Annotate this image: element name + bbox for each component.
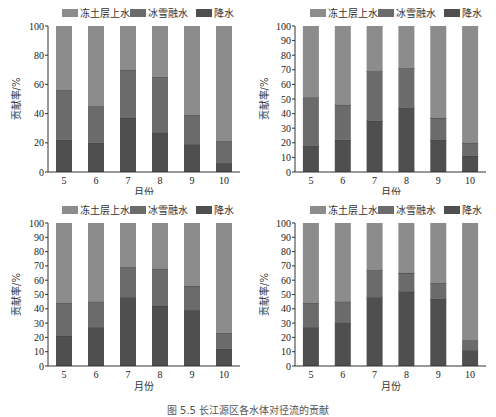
- bar-segment: [367, 223, 383, 270]
- x-tick-label: 10: [219, 369, 229, 380]
- bar-segment: [462, 340, 478, 350]
- y-tick-label: 0: [286, 167, 291, 178]
- legend-label: 冰雪融水: [396, 204, 436, 216]
- chart-panel-a: 冻土层上水冰雪融水降水5678910020406080100贡献率/%月份(a): [0, 0, 248, 195]
- x-tick-label: 7: [372, 175, 377, 186]
- y-tick-label: 40: [34, 303, 44, 314]
- y-tick-label: 90: [34, 232, 44, 243]
- y-tick-label: 30: [281, 318, 291, 329]
- legend: 冻土层上水冰雪融水降水: [310, 204, 482, 216]
- x-tick-label: 6: [94, 369, 99, 380]
- bar-segment: [398, 292, 414, 366]
- x-tick-label: 10: [465, 369, 475, 380]
- y-tick-label: 50: [281, 289, 291, 300]
- bar-segment: [367, 26, 383, 71]
- bar-segment: [430, 118, 446, 140]
- y-tick-label: 70: [281, 64, 291, 75]
- bar-segment: [88, 223, 104, 302]
- y-tick-label: 0: [286, 361, 291, 372]
- y-axis-label: 贡献率/%: [258, 78, 270, 121]
- bar-segment: [303, 146, 319, 172]
- stacked-bar-chart-a: 冻土层上水冰雪融水降水5678910020406080100贡献率/%月份(a): [0, 0, 248, 195]
- bar-segment: [303, 26, 319, 98]
- x-tick-label: 5: [308, 175, 313, 186]
- x-tick-label: 7: [126, 175, 131, 186]
- legend-label: 降水: [214, 7, 234, 19]
- bar-segment: [120, 70, 136, 118]
- y-tick-label: 20: [281, 137, 291, 148]
- x-tick-label: 8: [404, 369, 409, 380]
- y-tick-label: 80: [34, 50, 44, 61]
- x-tick-label: 5: [62, 369, 67, 380]
- y-tick-label: 70: [281, 260, 291, 271]
- bar-segment: [120, 267, 136, 297]
- legend-label: 冰雪融水: [396, 7, 436, 19]
- legend: 冻土层上水冰雪融水降水: [310, 7, 482, 19]
- legend-swatch: [130, 9, 146, 17]
- bar-segment: [184, 223, 200, 286]
- legend-label: 降水: [462, 7, 482, 19]
- bar-segment: [88, 106, 104, 143]
- legend: 冻土层上水冰雪融水降水: [62, 204, 234, 216]
- y-tick-label: 10: [281, 346, 291, 357]
- x-tick-label: 6: [340, 369, 345, 380]
- legend-swatch: [130, 206, 146, 214]
- y-tick-label: 90: [281, 35, 291, 46]
- legend-label: 冻土层上水: [328, 7, 378, 19]
- legend: 冻土层上水冰雪融水降水: [62, 7, 234, 19]
- y-tick-label: 50: [34, 289, 44, 300]
- bar-segment: [216, 26, 232, 141]
- y-tick-label: 30: [281, 123, 291, 134]
- x-tick-label: 6: [94, 175, 99, 186]
- legend-label: 降水: [214, 204, 234, 216]
- bar-segment: [367, 71, 383, 121]
- y-tick-label: 0: [39, 167, 44, 178]
- bar-segment: [462, 26, 478, 143]
- stacked-bar-chart-c: 冻土层上水冰雪融水降水56789100102030405060708090100…: [0, 192, 248, 392]
- y-tick-label: 20: [34, 137, 44, 148]
- bar-segment: [120, 118, 136, 172]
- bar-segment: [184, 26, 200, 115]
- x-tick-label: 10: [465, 175, 475, 186]
- bars: [56, 26, 232, 172]
- bar-segment: [398, 68, 414, 107]
- x-tick-label: 5: [62, 175, 67, 186]
- bar-segment: [88, 327, 104, 366]
- bar-segment: [56, 90, 72, 140]
- legend-label: 冻土层上水: [80, 7, 130, 19]
- y-tick-label: 30: [34, 318, 44, 329]
- bar-segment: [152, 269, 168, 306]
- legend-swatch: [444, 9, 460, 17]
- y-axis-label: 贡献率/%: [258, 273, 270, 316]
- bar-segment: [398, 273, 414, 292]
- legend-label: 冰雪融水: [148, 7, 188, 19]
- legend-swatch: [62, 206, 78, 214]
- bar-segment: [335, 140, 351, 172]
- y-tick-label: 80: [281, 246, 291, 257]
- bar-segment: [216, 141, 232, 163]
- bar-segment: [335, 302, 351, 323]
- bar-segment: [462, 156, 478, 172]
- legend-swatch: [378, 206, 394, 214]
- bar-segment: [152, 77, 168, 133]
- bar-segment: [120, 26, 136, 70]
- legend-swatch: [196, 206, 212, 214]
- legend-label: 冰雪融水: [148, 204, 188, 216]
- bar-segment: [184, 144, 200, 172]
- legend-label: 降水: [462, 204, 482, 216]
- bar-segment: [462, 223, 478, 340]
- bar-segment: [56, 140, 72, 172]
- bar-segment: [430, 299, 446, 366]
- y-tick-label: 100: [29, 218, 44, 229]
- bar-segment: [88, 302, 104, 328]
- legend-swatch: [310, 9, 326, 17]
- y-tick-label: 80: [281, 50, 291, 61]
- y-tick-label: 40: [34, 108, 44, 119]
- bar-segment: [56, 336, 72, 366]
- y-tick-label: 100: [29, 21, 44, 32]
- bar-segment: [184, 115, 200, 144]
- chart-panel-b: 冻土层上水冰雪融水降水56789100102030405060708090100…: [248, 0, 496, 195]
- bar-segment: [398, 108, 414, 172]
- x-tick-label: 9: [190, 175, 195, 186]
- bar-segment: [398, 223, 414, 273]
